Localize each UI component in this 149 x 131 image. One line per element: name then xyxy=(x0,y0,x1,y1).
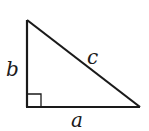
label-b: b xyxy=(6,57,19,81)
label-a: a xyxy=(71,108,83,131)
hypotenuse-c xyxy=(27,20,140,107)
right-angle-marker xyxy=(27,94,41,107)
triangle xyxy=(26,20,140,107)
label-c: c xyxy=(87,45,98,69)
right-triangle-diagram: b a c xyxy=(0,0,149,131)
